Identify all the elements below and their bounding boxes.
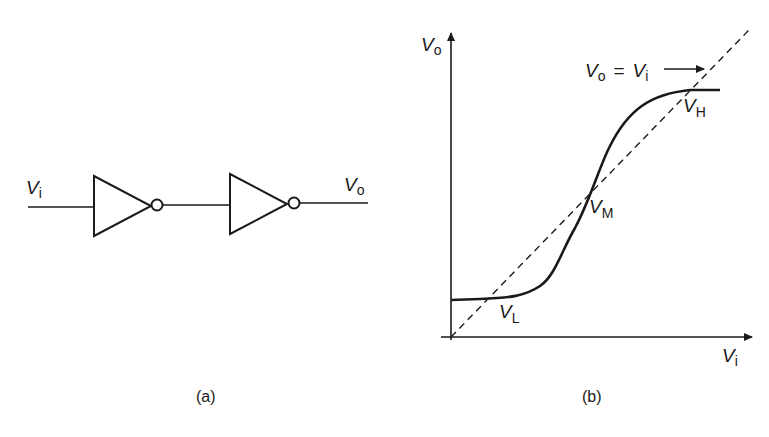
point-label-vh: VH [683, 95, 706, 120]
y-axis-label: Vo [421, 34, 442, 58]
inverter-2 [230, 174, 300, 234]
unity-line-label: Vo=Vi [585, 60, 648, 84]
x-axis-label: Vi [722, 345, 738, 369]
buffer-triangle-1 [94, 176, 151, 236]
inversion-bubble-2 [289, 198, 300, 209]
point-label-vl: VL [499, 301, 520, 326]
point-label-vm: VM [589, 196, 613, 221]
input-label: Vi [26, 177, 42, 201]
panel-b-transfer-plot: Vo Vi Vo=Vi VH VM VL (b) [421, 30, 752, 405]
output-label: Vo [344, 174, 365, 198]
panel-a-circuit: Vi Vo (a) [26, 174, 368, 405]
figure: Vi Vo (a) Vo Vi Vo=Vi VH VM VL (b) [0, 0, 769, 437]
inverter-1 [94, 176, 163, 236]
inversion-bubble-1 [152, 200, 163, 211]
buffer-triangle-2 [230, 174, 287, 234]
caption-b: (b) [582, 388, 602, 405]
caption-a: (a) [196, 388, 216, 405]
transfer-curve [451, 90, 720, 300]
